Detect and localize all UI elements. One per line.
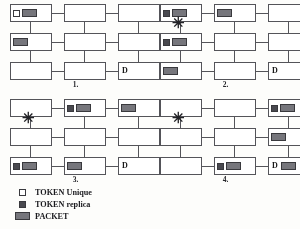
packet-icon xyxy=(280,104,295,112)
mesh-node xyxy=(160,128,202,146)
mesh-link-vertical xyxy=(138,51,139,62)
panel-caption: 2. xyxy=(158,80,293,89)
legend-item: PACKET xyxy=(14,210,194,222)
mesh-node xyxy=(214,33,256,51)
mesh-link-vertical xyxy=(234,22,235,33)
mesh-node xyxy=(64,62,106,80)
mesh-node xyxy=(160,62,202,80)
mesh-link-horizontal xyxy=(202,108,214,109)
panel-2: D✳2. xyxy=(158,2,293,94)
panel-caption: 4. xyxy=(158,175,293,184)
mesh-link-horizontal xyxy=(202,71,214,72)
mesh-link-vertical xyxy=(288,146,289,157)
mesh-link-horizontal xyxy=(256,13,268,14)
mesh-link-horizontal xyxy=(202,137,214,138)
star-marker-icon: ✳ xyxy=(172,16,185,31)
packet-icon xyxy=(15,212,30,220)
mesh-node xyxy=(10,157,52,175)
mesh-node xyxy=(214,99,256,117)
mesh-link-vertical xyxy=(30,51,31,62)
mesh-link-vertical xyxy=(138,22,139,33)
mesh-node xyxy=(160,33,202,51)
mesh-link-vertical xyxy=(138,117,139,128)
mesh-link-vertical xyxy=(288,22,289,33)
mesh-node xyxy=(214,4,256,22)
mesh-node xyxy=(64,33,106,51)
token-replica-icon xyxy=(271,105,278,112)
mesh-link-horizontal xyxy=(106,13,118,14)
packet-icon xyxy=(121,104,136,112)
legend-label: TOKEN replica xyxy=(35,200,90,209)
token-replica-icon xyxy=(19,201,26,208)
mesh-node xyxy=(214,128,256,146)
mesh-grid: D xyxy=(158,2,293,80)
mesh-node: D xyxy=(268,157,300,175)
mesh-link-horizontal xyxy=(52,166,64,167)
star-marker-icon: ✳ xyxy=(22,111,35,126)
mesh-link-horizontal xyxy=(106,71,118,72)
mesh-node xyxy=(10,4,52,22)
mesh-link-horizontal xyxy=(256,71,268,72)
mesh-link-horizontal xyxy=(256,42,268,43)
mesh-node xyxy=(118,99,160,117)
mesh-link-vertical xyxy=(84,51,85,62)
panel-1: D1. xyxy=(8,2,143,94)
panel-caption: 3. xyxy=(8,175,143,184)
mesh-grid: D xyxy=(158,97,293,175)
mesh-link-vertical xyxy=(288,117,289,128)
mesh-node xyxy=(10,128,52,146)
token-replica-icon xyxy=(163,39,170,46)
token-unique-icon xyxy=(13,10,20,17)
star-marker-icon: ✳ xyxy=(172,111,185,126)
legend-swatch xyxy=(14,212,30,220)
mesh-link-horizontal xyxy=(256,166,268,167)
mesh-node xyxy=(214,157,256,175)
packet-icon xyxy=(163,67,178,75)
packet-icon xyxy=(217,9,232,17)
mesh-node xyxy=(118,128,160,146)
legend: TOKEN UniqueTOKEN replicaPACKET xyxy=(14,186,194,222)
mesh-link-vertical xyxy=(84,146,85,157)
mesh-grid: D xyxy=(8,97,143,175)
mesh-link-horizontal xyxy=(52,71,64,72)
mesh-link-vertical xyxy=(180,146,181,157)
mesh-link-vertical xyxy=(234,117,235,128)
mesh-link-horizontal xyxy=(256,108,268,109)
mesh-link-vertical xyxy=(30,22,31,33)
mesh-node xyxy=(268,99,300,117)
token-replica-icon xyxy=(217,163,224,170)
mesh-node xyxy=(160,157,202,175)
mesh-node xyxy=(64,4,106,22)
mesh-node: D xyxy=(118,157,160,175)
panel-caption: 1. xyxy=(8,80,143,89)
packet-icon xyxy=(22,9,37,17)
mesh-node xyxy=(118,4,160,22)
mesh-node xyxy=(268,4,300,22)
packet-icon xyxy=(172,38,187,46)
packet-icon xyxy=(281,162,296,170)
mesh-link-horizontal xyxy=(106,42,118,43)
legend-label: PACKET xyxy=(35,212,69,221)
packet-icon xyxy=(22,162,37,170)
legend-label: TOKEN Unique xyxy=(35,188,92,197)
mesh-link-horizontal xyxy=(106,137,118,138)
mesh-node xyxy=(268,33,300,51)
mesh-grid: D xyxy=(8,2,143,80)
mesh-link-vertical xyxy=(30,146,31,157)
packet-icon xyxy=(13,38,28,46)
packet-icon xyxy=(271,133,286,141)
mesh-node xyxy=(118,33,160,51)
packet-icon xyxy=(76,104,91,112)
destination-label: D xyxy=(122,67,128,75)
legend-item: TOKEN replica xyxy=(14,198,194,210)
mesh-link-horizontal xyxy=(52,108,64,109)
token-replica-icon xyxy=(163,10,170,17)
mesh-link-vertical xyxy=(288,51,289,62)
token-unique-icon xyxy=(19,189,26,196)
mesh-link-horizontal xyxy=(202,166,214,167)
destination-label: D xyxy=(272,67,278,75)
mesh-node xyxy=(64,128,106,146)
mesh-node xyxy=(268,128,300,146)
mesh-node: D xyxy=(268,62,300,80)
mesh-link-horizontal xyxy=(202,42,214,43)
